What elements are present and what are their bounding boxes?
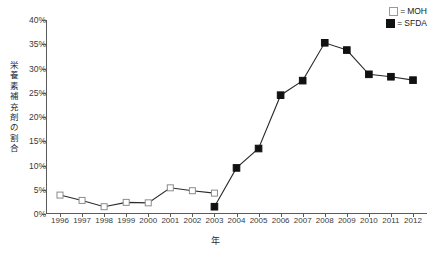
- x-tick-label: 2011: [382, 216, 399, 225]
- y-tick-mark: [42, 93, 46, 94]
- x-axis-title: 年: [0, 234, 431, 247]
- data-point-moh-1997: [79, 197, 85, 203]
- x-axis-tick-labels: 1996199719981999200020012002200320042005…: [46, 216, 427, 230]
- legend-label: MOH: [407, 5, 427, 17]
- open-square-icon: [389, 7, 398, 16]
- data-point-sfda-2011: [388, 73, 395, 80]
- plot-area: [46, 14, 427, 214]
- data-point-moh-2002: [189, 188, 195, 194]
- y-tick-mark: [42, 141, 46, 142]
- x-tick-label: 2005: [250, 216, 268, 225]
- x-tick-label: 2007: [294, 216, 312, 225]
- data-point-sfda-2003: [211, 203, 218, 210]
- data-point-sfda-2012: [410, 77, 417, 84]
- series-line-sfda: [214, 43, 413, 207]
- x-tick-label: 2008: [316, 216, 334, 225]
- legend-label: SFDA: [404, 17, 427, 29]
- data-point-sfda-2009: [344, 47, 351, 54]
- series-layer: [46, 14, 427, 214]
- y-tick-mark: [42, 69, 46, 70]
- data-point-sfda-2006: [277, 92, 284, 99]
- data-point-sfda-2007: [299, 77, 306, 84]
- data-point-moh-2003: [211, 190, 217, 196]
- x-tick-label: 2012: [404, 216, 422, 225]
- filled-square-icon: [386, 19, 395, 28]
- line-chart: 栄養素補充剤の割合 0%5%10%15%20%25%30%35%40% 1996…: [0, 0, 431, 262]
- y-tick-mark: [42, 214, 46, 215]
- x-tick-label: 2003: [206, 216, 224, 225]
- legend-equals-sign: =: [400, 5, 405, 17]
- x-tick-label: 1999: [117, 216, 135, 225]
- x-tick-label: 2000: [139, 216, 157, 225]
- legend-equals-sign: =: [397, 17, 402, 29]
- y-tick-mark: [42, 117, 46, 118]
- data-point-sfda-2008: [321, 40, 328, 47]
- x-tick-label: 2006: [272, 216, 290, 225]
- data-point-sfda-2005: [255, 145, 262, 152]
- x-tick-label: 1997: [73, 216, 91, 225]
- x-tick-label: 1998: [95, 216, 113, 225]
- data-point-sfda-2010: [366, 71, 373, 78]
- y-axis-tick-labels: 0%5%10%15%20%25%30%35%40%: [14, 0, 46, 262]
- y-tick-mark: [42, 190, 46, 191]
- legend-item-moh: =MOH: [386, 5, 427, 17]
- y-tick-mark: [42, 166, 46, 167]
- x-tick-label: 2002: [183, 216, 201, 225]
- x-tick-label: 2010: [360, 216, 378, 225]
- y-tick-mark: [42, 44, 46, 45]
- data-point-sfda-2004: [233, 165, 240, 172]
- y-tick-mark: [42, 20, 46, 21]
- x-tick-label: 2001: [161, 216, 179, 225]
- data-point-moh-1996: [57, 192, 63, 198]
- chart-legend: =MOH=SFDA: [386, 5, 427, 29]
- x-tick-label: 2004: [228, 216, 246, 225]
- x-tick-label: 2009: [338, 216, 356, 225]
- data-point-moh-1999: [123, 199, 129, 205]
- data-point-moh-1998: [101, 204, 107, 210]
- legend-item-sfda: =SFDA: [386, 17, 427, 29]
- x-tick-label: 1996: [51, 216, 69, 225]
- data-point-moh-2001: [167, 185, 173, 191]
- data-point-moh-2000: [145, 200, 151, 206]
